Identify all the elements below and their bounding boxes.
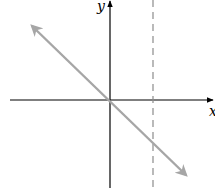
y-axis-label: y: [96, 0, 106, 14]
x-axis-label: x: [209, 103, 215, 119]
coordinate-plane: y x: [0, 0, 215, 188]
